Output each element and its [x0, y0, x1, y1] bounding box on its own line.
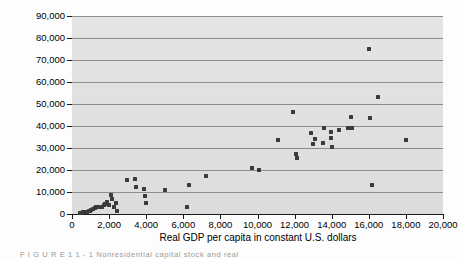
x-tick-label: 4,000 — [134, 220, 158, 230]
data-point — [321, 141, 325, 145]
data-point — [309, 131, 313, 135]
data-point — [133, 177, 137, 181]
x-axis-title: Real GDP per capita in constant U.S. dol… — [72, 232, 444, 243]
y-tick-label: 10,000 — [36, 187, 65, 197]
x-tick-label: 18,000 — [391, 220, 420, 230]
y-tick-mark — [67, 16, 72, 17]
gridline — [72, 192, 443, 193]
data-point — [337, 128, 341, 132]
data-point — [185, 205, 189, 209]
data-point — [276, 138, 280, 142]
y-tick-mark — [67, 60, 72, 61]
y-tick-mark — [67, 126, 72, 127]
y-tick-mark — [67, 192, 72, 193]
data-point — [125, 178, 129, 182]
data-point — [350, 126, 354, 130]
data-point — [329, 136, 333, 140]
y-tick-mark — [67, 82, 72, 83]
data-point — [330, 145, 334, 149]
plot-background — [72, 16, 443, 214]
y-tick-label: 30,000 — [36, 143, 65, 153]
x-tick-label: 10,000 — [243, 220, 272, 230]
y-tick-label: 20,000 — [36, 165, 65, 175]
data-point — [313, 137, 317, 141]
data-point — [204, 174, 208, 178]
gridline — [72, 16, 443, 17]
y-tick-label: 50,000 — [36, 99, 65, 109]
y-tick-label: 40,000 — [36, 121, 65, 131]
data-point — [376, 95, 380, 99]
y-tick-mark — [67, 38, 72, 39]
data-point — [163, 188, 167, 192]
data-point — [250, 166, 254, 170]
gridline — [72, 148, 443, 149]
y-tick-label: 80,000 — [36, 33, 65, 43]
data-point — [329, 130, 333, 134]
gridline — [72, 82, 443, 83]
data-point — [295, 156, 299, 160]
plot-area: 010,00020,00030,00040,00050,00060,00070,… — [72, 16, 443, 214]
data-point — [291, 110, 295, 114]
x-tick-label: 20,000 — [428, 220, 457, 230]
x-tick-label: 6,000 — [171, 220, 195, 230]
y-tick-label: 60,000 — [36, 77, 65, 87]
data-point — [187, 183, 191, 187]
y-tick-mark — [67, 148, 72, 149]
data-point — [322, 126, 326, 130]
y-tick-mark — [67, 170, 72, 171]
data-point — [115, 209, 119, 213]
data-point — [370, 183, 374, 187]
x-tick-label: 14,000 — [317, 220, 346, 230]
data-point — [144, 201, 148, 205]
x-tick-label: 12,000 — [280, 220, 309, 230]
data-point — [404, 138, 408, 142]
y-tick-label: 90,000 — [36, 11, 65, 21]
figure-scatter-plot: Nonresidential capital stock per capita … — [0, 0, 462, 259]
x-tick-label: 2,000 — [97, 220, 121, 230]
data-point — [142, 187, 146, 191]
y-tick-label: 0 — [60, 209, 65, 219]
data-point — [143, 194, 147, 198]
x-tick-label: 0 — [69, 220, 74, 230]
data-point — [368, 116, 372, 120]
data-point — [349, 115, 353, 119]
gridline — [72, 104, 443, 105]
data-point — [311, 142, 315, 146]
gridline — [72, 60, 443, 61]
y-tick-mark — [67, 104, 72, 105]
x-tick-label: 16,000 — [354, 220, 383, 230]
gridline — [72, 126, 443, 127]
data-point — [107, 203, 111, 207]
data-point — [257, 168, 261, 172]
data-point — [114, 201, 118, 205]
gridline — [72, 38, 443, 39]
x-tick-label: 8,000 — [209, 220, 233, 230]
figure-caption: F I G U R E 1 1 - 1 Nonresidential capit… — [20, 250, 450, 259]
data-point — [134, 185, 138, 189]
data-point — [367, 47, 371, 51]
y-tick-label: 70,000 — [36, 55, 65, 65]
